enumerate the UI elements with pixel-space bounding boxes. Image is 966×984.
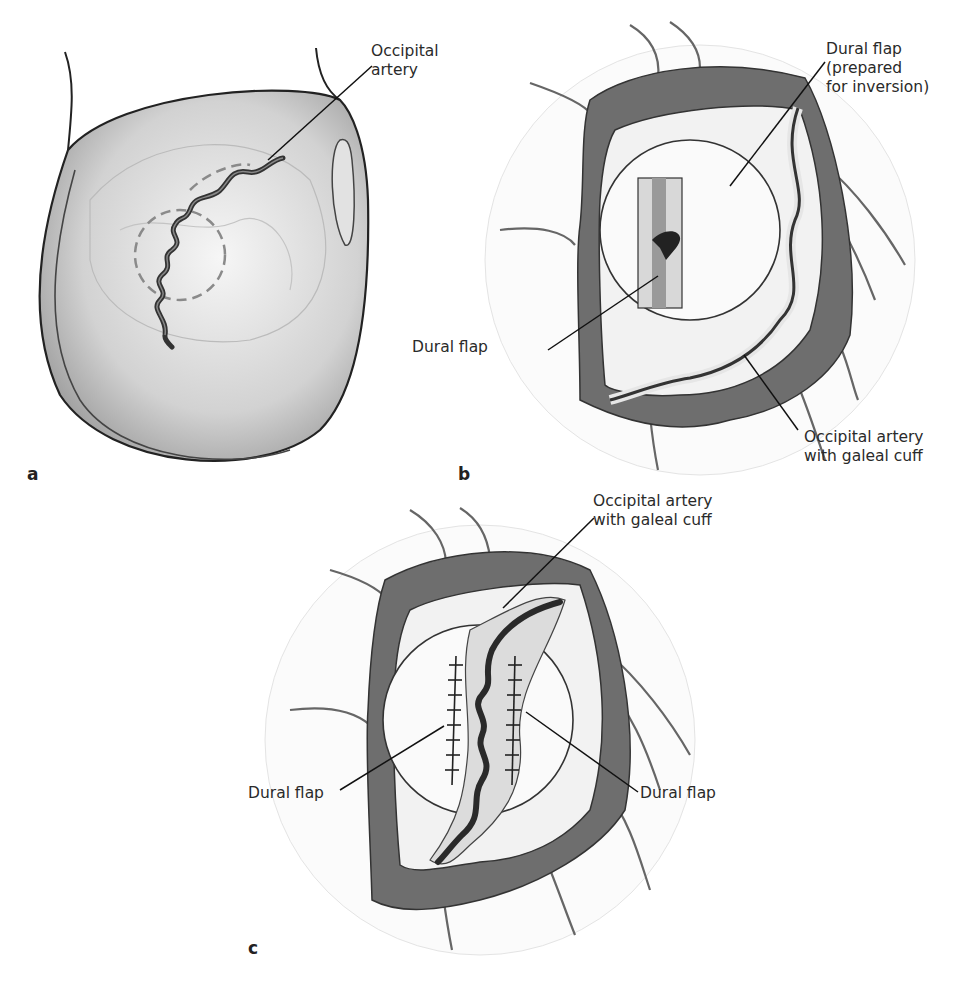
label-occipital-artery-galeal-cuff: Occipital artery with galeal cuff (593, 492, 713, 530)
label-occipital-artery: Occipital artery (371, 42, 439, 80)
label-dural-flap-left: Dural flap (248, 784, 324, 803)
label-occipital-artery-galeal-cuff: Occipital artery with galeal cuff (804, 428, 924, 466)
label-dural-flap-right: Dural flap (640, 784, 716, 803)
surgical-field-c (220, 490, 740, 984)
panel-letter-a: a (27, 464, 38, 484)
label-dural-flap-prepared: Dural flap (prepared for inversion) (826, 40, 929, 97)
panel-b: Dural flap (prepared for inversion) Dura… (480, 0, 966, 500)
panel-letter-c: c (248, 938, 258, 958)
panel-letter-b: b (458, 464, 470, 484)
label-dural-flap: Dural flap (412, 338, 488, 357)
panel-c: Occipital artery with galeal cuff Dural … (220, 490, 740, 984)
panel-a: Occipital artery a (0, 0, 480, 490)
